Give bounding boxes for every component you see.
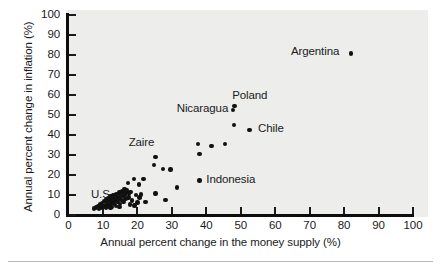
y-axis-title: Annual percent change in inflation (%) xyxy=(22,21,34,212)
footer-divider xyxy=(8,261,433,262)
annotation-argentina: Argentina xyxy=(291,45,339,57)
annotation-chile: Chile xyxy=(258,122,284,134)
annotation-nicaragua: Nicaragua xyxy=(177,102,229,114)
scatter-plot-figure: 0102030405060708090100010203040506070809… xyxy=(0,0,441,269)
annotation-zaire: Zaire xyxy=(129,136,155,148)
annotation-indonesia: Indonesia xyxy=(206,173,255,185)
x-axis-title: Annual percent change in the money suppl… xyxy=(0,236,441,248)
annotation-poland: Poland xyxy=(232,89,267,101)
annotation-us: U.S. xyxy=(91,188,113,200)
data-labels-layer: U.S.ZaireNicaraguaPolandChileArgentinaIn… xyxy=(0,0,441,269)
